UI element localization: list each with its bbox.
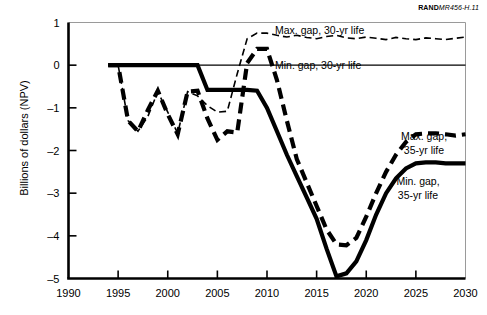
x-tick-label: 2020 [354,287,378,299]
annotation-max-gap-35yr-line1: Max. gap, [401,130,447,142]
y-tick-label: –3 [47,187,59,199]
annotation-max-gap-30yr: Max. gap, 30-yr life [275,24,364,36]
y-tick-label: –1 [47,102,59,114]
x-tick-label: 2005 [205,287,229,299]
y-tick-label: 0 [53,59,59,71]
annotation-min-gap-30yr: Min. gap, 30-yr life [275,59,362,71]
annotation-min-gap-35yr-line2: 35-yr life [398,189,438,201]
x-tick-label: 2010 [255,287,279,299]
series-line-3 [108,65,465,276]
y-tick-label: –5 [47,273,59,285]
x-tick-label: 2030 [453,287,477,299]
x-axis-ticks: 199019952000200520102015202020252030 [56,271,477,299]
y-tick-label: 1 [53,17,59,29]
x-tick-label: 2025 [404,287,428,299]
y-tick-label: –2 [47,145,59,157]
y-axis-ticks: 10–1–2–3–4–5 [47,17,76,285]
x-tick-label: 1990 [56,287,80,299]
figure-container: RANDMR456-H.11 Billions of dollars (NPV)… [0,0,487,315]
series-annotations: Max. gap, 30-yr lifeMin. gap, 30-yr life… [275,24,447,201]
x-tick-label: 2015 [304,287,328,299]
y-tick-label: –4 [47,230,59,242]
x-tick-label: 2000 [156,287,180,299]
chart-plot: 10–1–2–3–4–5 199019952000200520102015202… [0,0,487,315]
series-line-0 [108,33,465,133]
annotation-max-gap-35yr-line2: 35-yr life [404,144,444,156]
x-tick-label: 1995 [106,287,130,299]
annotation-min-gap-35yr-line1: Min. gap, [396,175,439,187]
